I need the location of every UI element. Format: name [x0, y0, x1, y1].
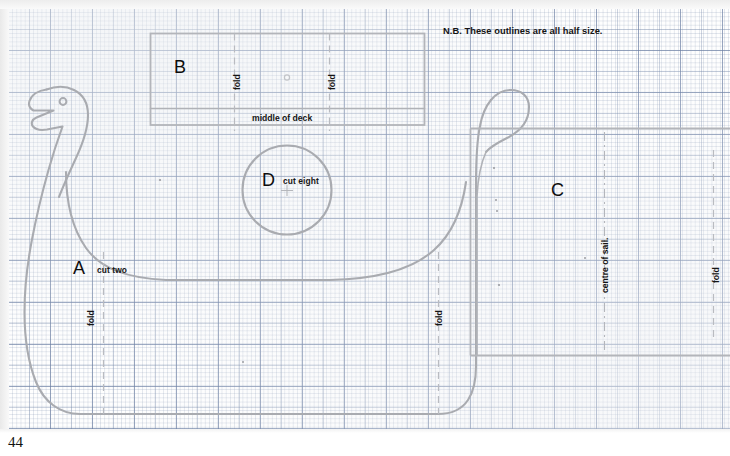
deck-centre-marker — [284, 75, 289, 80]
middle-of-deck-label: middle of deck — [252, 113, 312, 123]
piece-label-c: C — [551, 180, 564, 201]
piece-label-a: A — [73, 258, 85, 279]
pattern-outlines — [0, 0, 730, 456]
fold-label-sail-right: fold — [711, 267, 721, 283]
half-size-note: N.B. These outlines are all half size. — [443, 26, 602, 36]
piece-d-cut-note: cut eight — [283, 176, 319, 186]
piece-label-d: D — [262, 170, 275, 191]
fold-label-hull-left: fold — [86, 310, 96, 326]
piece-label-b: B — [174, 57, 186, 78]
scan-specks — [159, 167, 586, 363]
pattern-sheet: N.B. These outlines are all half size. B… — [0, 0, 730, 456]
centre-of-sail-label: centre of sail. — [600, 238, 610, 293]
piece-d-shield-circle — [243, 146, 332, 235]
page-number: 44 — [8, 434, 23, 451]
fold-label-deck-left: fold — [232, 74, 242, 90]
fold-label-deck-right: fold — [327, 74, 337, 90]
fold-label-hull-right: fold — [434, 310, 444, 326]
eye-marker — [60, 98, 67, 105]
piece-a-hull-outline — [25, 87, 530, 414]
piece-a-cut-note: cut two — [97, 265, 127, 275]
hull-fold-lines — [104, 252, 439, 414]
